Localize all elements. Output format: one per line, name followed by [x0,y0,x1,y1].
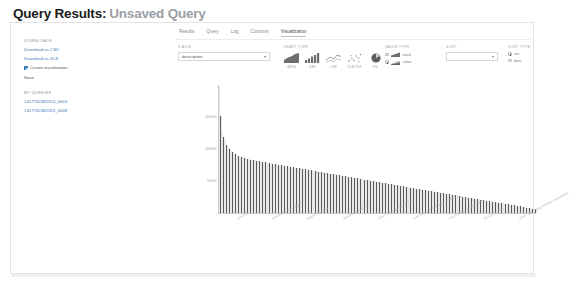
tab-query[interactable]: Query [206,29,219,37]
chevron-down-icon [264,56,266,58]
content-area: Results Query Log Columns Visualization … [166,23,533,273]
x-axis-labels: accountssynchronized programspages and a… [218,217,536,263]
valuetype-label: VALUE TYPE [385,45,411,49]
save-link[interactable]: Save [24,75,166,80]
xaxis-select[interactable]: description [178,52,270,61]
create-visualization-checkbox[interactable]: Create visualization [24,65,166,70]
tab-bar: Results Query Log Columns Visualization [179,29,306,37]
my-queries-heading: MY QUERIES [24,91,166,95]
sidebar: DOWNLOADS Download as CSV Download as XL… [11,23,166,273]
download-xls-link[interactable]: Download as XLS [24,56,166,61]
pie-chart-icon [367,52,384,63]
sorttype-option-desc[interactable]: desc [508,59,531,63]
y-axis-tick: 100000 [205,147,216,151]
chart-type-caption: LINE [325,65,342,69]
radio-icon [385,53,389,57]
valuetype-option-stack[interactable]: stack [385,52,411,57]
visualization-chart: 15000010000050000 accountssynchronized p… [196,85,538,265]
valuetype-group: VALUE TYPE stack value [385,45,411,67]
tab-visualization[interactable]: Visualization [281,29,307,37]
query-history-item[interactable]: 1417762382553_0008 [24,108,166,113]
charttype-group: CHART TYPE AREA [283,45,384,69]
chart-type-bar[interactable]: BAR [304,52,321,69]
radio-icon [508,59,512,63]
chevron-down-icon [492,56,494,58]
sort-group: SORT [446,45,498,61]
radio-icon [385,60,389,64]
create-visualization-label: Create visualization [30,65,68,70]
value-swatch-icon [391,60,400,65]
chart-type-caption: SCATTER [346,65,363,69]
xaxis-label: X AXIS [178,45,270,49]
page-title-label: Query Results: [13,6,106,21]
line-chart-icon [325,52,342,63]
sorttype-option-label: desc [514,59,522,63]
valuetype-option-value[interactable]: value [385,60,411,65]
download-csv-link[interactable]: Download as CSV [24,47,166,52]
y-axis-tick: 50000 [207,179,216,183]
chart-type-scatter[interactable]: SCATTER [346,52,363,69]
chart-type-caption: BAR [304,65,321,69]
tab-columns[interactable]: Columns [251,29,269,37]
valuetype-option-label: value [403,60,412,64]
chart-type-line[interactable]: LINE [325,52,342,69]
sort-select[interactable] [446,52,498,61]
chart-type-pie[interactable]: PIE [367,52,384,69]
area-chart-icon [283,52,300,63]
tab-divider [176,39,531,40]
sorttype-group: SORT TYPE asc desc [508,45,531,65]
valuetype-option-label: stack [403,53,411,57]
panel-shadow [12,274,536,277]
sorttype-option-asc[interactable]: asc [508,52,531,56]
query-history-item[interactable]: 1417762382553_0003 [24,99,166,104]
chart-type-area[interactable]: AREA [283,52,300,69]
sorttype-option-label: asc [514,52,520,56]
tab-results[interactable]: Results [179,29,194,37]
xaxis-selected-value: description [182,54,202,59]
checkbox-icon [24,66,28,70]
y-axis-tick: 150000 [205,115,216,119]
chart-type-caption: AREA [283,65,300,69]
chart-type-caption: PIE [367,65,384,69]
scatter-chart-icon [346,52,363,63]
sorttype-label: SORT TYPE [508,45,531,49]
charttype-label: CHART TYPE [283,45,384,49]
stack-swatch-icon [391,52,400,57]
page-title-query-name: Unsaved Query [109,6,205,21]
query-results-panel: DOWNLOADS Download as CSV Download as XL… [10,22,534,274]
chart-plot-area: 15000010000050000 [218,85,536,214]
tab-log[interactable]: Log [231,29,239,37]
radio-icon [508,52,512,56]
sidebar-spacer [24,84,166,91]
chart-type-list: AREA BAR [283,52,384,69]
bar-chart-icon [304,52,321,63]
page-title: Query Results:Unsaved Query [13,6,206,21]
bar-series [219,85,536,213]
downloads-heading: DOWNLOADS [24,39,166,43]
xaxis-group: X AXIS description [178,45,270,61]
visualization-toolbar: X AXIS description CHART TYPE AR [178,45,525,79]
sort-label: SORT [446,45,498,49]
